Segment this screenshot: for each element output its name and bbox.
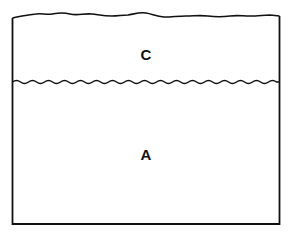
top-torn-edge — [13, 13, 280, 18]
diagram-canvas: C A — [0, 0, 290, 235]
wavy-boundary — [13, 81, 280, 84]
region-label-upper: C — [141, 46, 152, 63]
region-label-lower: A — [141, 146, 152, 163]
